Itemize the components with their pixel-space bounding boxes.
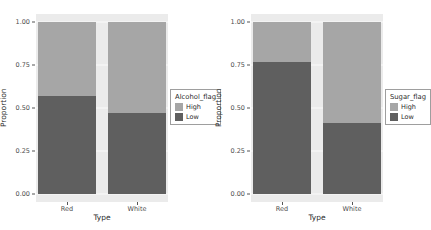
plot-panel	[251, 14, 383, 202]
y-tick-mark	[32, 194, 35, 195]
bar-red	[253, 22, 311, 194]
legend-item-low: Low	[175, 113, 216, 121]
y-tick-mark	[247, 108, 250, 109]
y-tick-mark	[247, 151, 250, 152]
segment-low	[38, 96, 96, 194]
legend-swatch-low	[175, 113, 183, 121]
legend-swatch-high	[175, 103, 183, 111]
y-tick-mark	[32, 22, 35, 23]
y-tick-label: 1.00	[16, 19, 30, 26]
legend-title: Sugar_flag	[390, 93, 426, 101]
y-tick-mark	[247, 194, 250, 195]
y-axis-ticks	[247, 22, 250, 194]
y-tick-label: 0.75	[16, 62, 30, 69]
x-label-cell: Red	[253, 202, 311, 213]
y-tick-label: 0.00	[16, 191, 30, 198]
y-axis-tick-labels: 1.00 0.75 0.50 0.25 0.00	[0, 22, 30, 194]
y-axis-ticks	[32, 22, 35, 194]
x-label-cell: White	[108, 202, 166, 213]
y-tick-label: 0.25	[16, 148, 30, 155]
x-axis-title: Type	[36, 214, 168, 222]
y-tick-mark	[32, 151, 35, 152]
y-tick-label: 0.00	[231, 191, 245, 198]
x-label-cell: White	[323, 202, 381, 213]
bar-white	[108, 22, 166, 194]
legend-swatch-high	[390, 103, 398, 111]
segment-high	[38, 22, 96, 96]
legend-label: Low	[401, 114, 414, 121]
bar-white	[323, 22, 381, 194]
legend-label: High	[186, 104, 201, 111]
y-tick-label: 0.75	[231, 62, 245, 69]
plot-region	[251, 22, 383, 194]
segment-low	[108, 113, 166, 194]
legend-swatch-low	[390, 113, 398, 121]
x-tick-label: White	[128, 206, 147, 213]
bars-container	[36, 22, 168, 194]
legend-label: Low	[186, 114, 199, 121]
bars-container	[251, 22, 383, 194]
y-axis-tick-labels: 1.00 0.75 0.50 0.25 0.00	[215, 22, 245, 194]
x-axis-tick-labels: Red White	[251, 202, 383, 213]
y-tick-label: 1.00	[231, 19, 245, 26]
legend-sugar-flag: Sugar_flag High Low	[385, 89, 431, 125]
y-tick-label: 0.50	[231, 105, 245, 112]
plot-region	[36, 22, 168, 194]
x-axis-title: Type	[251, 214, 383, 222]
plot-panel	[36, 14, 168, 202]
legend-title: Alcohol_flag	[175, 93, 216, 101]
segment-high	[108, 22, 166, 113]
y-tick-mark	[247, 65, 250, 66]
segment-high	[253, 22, 311, 62]
x-label-cell: Red	[38, 202, 96, 213]
y-tick-mark	[32, 65, 35, 66]
segment-low	[323, 123, 381, 194]
chart-alcohol-flag: Proportion 1.00 0.75 0.50 0.25 0.00	[0, 0, 215, 230]
x-tick-label: Red	[61, 206, 73, 213]
legend-item-low: Low	[390, 113, 426, 121]
y-tick-label: 0.50	[16, 105, 30, 112]
y-tick-mark	[247, 22, 250, 23]
segment-high	[323, 22, 381, 123]
figure-row: Proportion 1.00 0.75 0.50 0.25 0.00	[0, 0, 431, 230]
legend-label: High	[401, 104, 416, 111]
legend-item-high: High	[390, 103, 426, 111]
y-tick-mark	[32, 108, 35, 109]
bar-red	[38, 22, 96, 194]
x-tick-label: Red	[276, 206, 288, 213]
y-tick-label: 0.25	[231, 148, 245, 155]
x-tick-label: White	[343, 206, 362, 213]
x-axis-tick-labels: Red White	[36, 202, 168, 213]
segment-low	[253, 62, 311, 194]
legend-item-high: High	[175, 103, 216, 111]
chart-sugar-flag: Proportion 1.00 0.75 0.50 0.25 0.00	[215, 0, 430, 230]
